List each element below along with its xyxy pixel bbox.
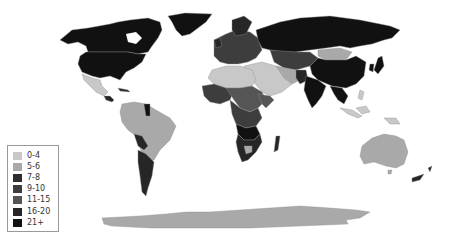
legend-label: 11-15 — [27, 196, 50, 204]
legend-label: 7-8 — [27, 174, 40, 182]
legend-swatch — [13, 196, 22, 204]
legend-swatch — [13, 208, 22, 216]
region-korea — [369, 64, 374, 72]
region-antarctica — [102, 206, 370, 228]
legend-swatch — [13, 174, 22, 182]
legend-item: 21+ — [13, 217, 58, 228]
region-russia — [256, 16, 400, 52]
world-map — [0, 0, 462, 240]
region-madagascar — [274, 136, 280, 152]
legend-label: 16-20 — [27, 208, 50, 216]
legend-swatch — [13, 185, 22, 193]
region-japan — [374, 56, 384, 74]
region-usa — [78, 52, 146, 80]
legend-label: 0-4 — [27, 152, 40, 160]
legend-swatch — [13, 152, 22, 160]
region-central-america — [104, 96, 114, 102]
legend-item: 16-20 — [13, 206, 58, 217]
legend-label: 21+ — [27, 219, 44, 227]
legend-swatch — [13, 219, 22, 227]
legend-item: 9-10 — [13, 184, 58, 195]
region-southeast-asia — [330, 86, 348, 104]
region-mongolia — [318, 48, 352, 60]
legend-item: 11-15 — [13, 195, 58, 206]
region-indonesia — [340, 106, 400, 124]
legend-item: 0-4 — [13, 150, 58, 161]
region-north-america-north — [60, 18, 162, 54]
map-legend: 0-4 5-6 7-8 9-10 11-15 16-20 21+ — [7, 145, 59, 232]
region-philippines — [358, 90, 364, 100]
region-caribbean — [118, 88, 130, 92]
legend-item: 5-6 — [13, 161, 58, 172]
region-australia — [360, 134, 408, 168]
region-tasmania — [388, 170, 392, 174]
legend-label: 9-10 — [27, 185, 45, 193]
region-new-zealand — [412, 166, 432, 182]
legend-label: 5-6 — [27, 163, 40, 171]
legend-swatch — [13, 163, 22, 171]
legend-item: 7-8 — [13, 172, 58, 183]
region-greenland — [168, 13, 212, 36]
